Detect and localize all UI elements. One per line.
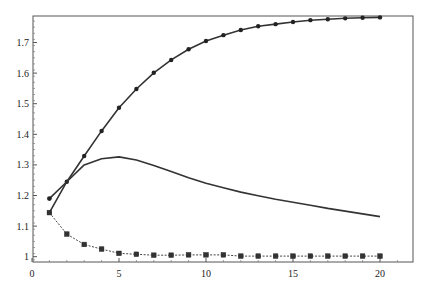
- plot-border: [33, 16, 413, 262]
- circle-marker: [239, 28, 243, 32]
- square-marker: [360, 254, 365, 259]
- y-tick-label: 1.5: [17, 98, 30, 109]
- plot-frame: [33, 16, 413, 262]
- square-marker: [169, 253, 174, 258]
- y-tick-label: 1.6: [17, 68, 30, 79]
- square-marker: [204, 253, 209, 258]
- circle-marker: [134, 87, 138, 91]
- circle-marker: [221, 33, 225, 37]
- circle-marker: [256, 24, 260, 28]
- y-tick-label: 1.7: [17, 37, 30, 48]
- square-marker: [221, 253, 226, 258]
- square-marker: [291, 254, 296, 259]
- x-tick-label: 5: [117, 268, 122, 279]
- square-marker: [134, 252, 139, 257]
- circle-marker: [343, 16, 347, 20]
- rising-series-line: [49, 17, 380, 212]
- square-marker: [239, 254, 244, 259]
- square-marker: [273, 254, 278, 259]
- square-marker: [256, 254, 261, 259]
- series-layer: [47, 15, 382, 258]
- circle-marker: [273, 22, 277, 26]
- circle-marker: [326, 17, 330, 21]
- start-circle-marker: [47, 196, 52, 201]
- x-tick-label: 20: [375, 268, 385, 279]
- y-tick-label: 1.1: [17, 221, 30, 232]
- x-tick-label: 15: [288, 268, 298, 279]
- square-marker: [47, 210, 52, 215]
- x-axis: 05101520: [30, 258, 398, 279]
- square-marker: [343, 254, 348, 259]
- square-marker: [99, 247, 104, 252]
- circle-marker: [308, 18, 312, 22]
- x-tick-label: 10: [201, 268, 211, 279]
- x-tick-label: 0: [30, 268, 35, 279]
- circle-marker: [82, 154, 86, 158]
- peaked-series-line: [49, 157, 380, 217]
- circle-marker: [204, 39, 208, 43]
- circle-marker: [360, 16, 364, 20]
- square-marker: [152, 253, 157, 258]
- circle-marker: [99, 129, 103, 133]
- circle-marker: [152, 71, 156, 75]
- circle-marker: [117, 105, 121, 109]
- square-marker: [82, 242, 87, 247]
- y-tick-label: 1.3: [17, 159, 30, 170]
- circle-marker: [378, 15, 382, 19]
- square-marker: [308, 254, 313, 259]
- square-marker: [378, 254, 383, 259]
- circle-marker: [291, 20, 295, 24]
- decaying-series-line: [49, 213, 380, 257]
- square-marker: [65, 232, 70, 237]
- y-tick-label: 1.2: [17, 190, 30, 201]
- square-marker: [117, 251, 122, 256]
- y-tick-label: 1.4: [17, 129, 30, 140]
- square-marker: [326, 254, 331, 259]
- y-tick-label: 1: [24, 251, 29, 262]
- y-axis: 11.11.21.31.41.51.61.7: [17, 21, 38, 262]
- line-chart: 11.11.21.31.41.51.61.7 05101520: [0, 0, 428, 290]
- circle-marker: [169, 58, 173, 62]
- square-marker: [186, 253, 191, 258]
- circle-marker: [186, 47, 190, 51]
